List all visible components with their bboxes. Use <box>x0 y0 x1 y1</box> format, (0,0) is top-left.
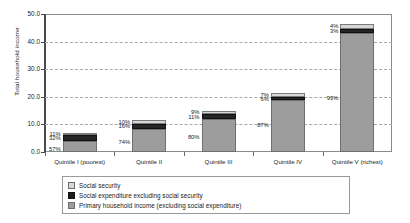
bar-stack[interactable] <box>132 120 166 152</box>
bar-stack[interactable] <box>340 24 374 152</box>
x-axis-tick-mark <box>114 152 115 156</box>
x-axis-tick-label: Quintile III <box>184 158 253 165</box>
x-axis-tick-label: Quintile IV <box>253 158 322 165</box>
bar-stack[interactable] <box>63 133 97 152</box>
legend-item-social-expenditure: Social expenditure excluding social secu… <box>68 190 344 200</box>
legend-label-social-security: Social security <box>79 182 120 189</box>
legend-swatch-icon-social-expenditure <box>68 192 75 199</box>
chart-legend: Social security Social expenditure exclu… <box>62 176 350 214</box>
bar-segment-primary-income[interactable] <box>340 33 374 152</box>
legend-item-primary-income: Primary household income (excluding soci… <box>68 200 344 210</box>
legend-item-social-security: Social security <box>68 180 344 190</box>
bar-segment-primary-income[interactable] <box>63 141 97 152</box>
bar-segment-primary-income[interactable] <box>132 129 166 152</box>
x-axis-tick-mark <box>184 152 185 156</box>
data-label-social-expenditure: 16% <box>108 123 130 129</box>
x-axis-tick-mark <box>45 152 46 156</box>
legend-label-primary-income: Primary household income (excluding soci… <box>79 202 241 209</box>
data-label-primary-income: 93% <box>316 95 338 101</box>
bar-stack[interactable] <box>202 111 236 152</box>
bar-segment-primary-income[interactable] <box>271 100 305 152</box>
data-label-social-expenditure: 6% <box>247 96 269 102</box>
data-label-primary-income: 80% <box>178 134 200 140</box>
data-label-social-expenditure: 3% <box>316 28 338 34</box>
x-axis-tick-mark <box>253 152 254 156</box>
x-axis-tick-mark <box>323 152 324 156</box>
x-axis-tick-label: Quintile V (richest) <box>323 158 392 165</box>
legend-swatch-icon-social-security <box>68 182 75 189</box>
legend-swatch-icon-primary-income <box>68 202 75 209</box>
bar-segment-primary-income[interactable] <box>202 119 236 152</box>
data-label-primary-income: 87% <box>247 122 269 128</box>
legend-label-social-expenditure: Social expenditure excluding social secu… <box>79 192 203 199</box>
data-label-primary-income: 74% <box>108 139 130 145</box>
stacked-bar-chart: Total household income 0.010.020.030.040… <box>0 0 410 223</box>
data-label-primary-income: 57% <box>39 146 61 152</box>
data-label-social-expenditure: 11% <box>178 114 200 120</box>
data-label-social-expenditure: 32% <box>39 135 61 141</box>
bar-stack[interactable] <box>271 93 305 152</box>
x-axis-tick-label: Quintile II <box>114 158 183 165</box>
x-axis-tick-label: Quintile I (poorest) <box>45 158 114 165</box>
